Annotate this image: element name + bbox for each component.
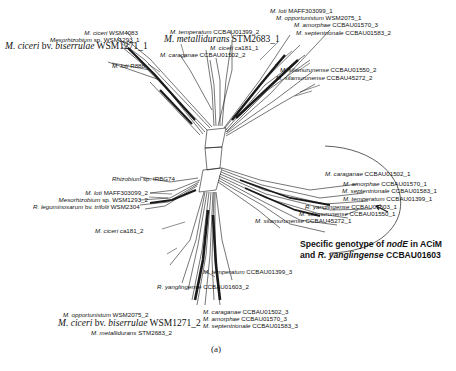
species: leguminosarum xyxy=(41,203,83,210)
strain: ca181_1 xyxy=(235,44,259,51)
label-m-loti-r88b: M. loti R88b xyxy=(100,62,145,69)
species: silamurunense xyxy=(264,217,304,224)
label-m-ciceri-biserrulae-wsm1271-1: M. ciceri bv. biserrulae WSM1271_1 xyxy=(5,41,148,51)
strain: WSM2304 xyxy=(111,203,140,210)
species: opportunistum xyxy=(285,14,324,21)
label-m-septentrionale-ccbau01583-2: M. septentrionale CCBAU01583_2 xyxy=(296,29,391,36)
strain: MAFF303099_2 xyxy=(104,189,148,196)
label-m-septentrionale-ccbau01583-3: M. septentrionale CCBAU01583_3 xyxy=(203,322,298,329)
strain: STM2683_1 xyxy=(232,34,280,44)
strain: CCBAU01550_2 xyxy=(331,66,377,73)
label-m-temperatum-ccbau01399-3: M. temperatum CCBAU01399_3 xyxy=(203,268,292,275)
callout-line-1: Specific genotype of nodE in ACiM xyxy=(300,239,442,250)
genus: M. xyxy=(91,329,98,336)
strain: STM2683_2 xyxy=(138,329,172,336)
species: metallidurans xyxy=(177,34,230,44)
label-m-silamurunense-ccbau01550-2: M. silamurunense CCBAU01550_2 xyxy=(280,66,376,73)
strain: WSM1293_2 xyxy=(112,196,148,203)
label-m-amorphae-ccbau01570-3-top: M. amorphae CCBAU01570_3 xyxy=(294,21,378,28)
strain: CCBAU01502_1 xyxy=(365,170,411,177)
genus: M. xyxy=(280,66,287,73)
genus: M. xyxy=(325,170,332,177)
label-r-yanglingense-ccbau01603-1: R. yanglingense CCBAU01603_1 xyxy=(305,203,397,210)
callout-text: in ACiM xyxy=(408,239,442,249)
label-m-ciceri-ca181-2: M. ciceri ca181_2 xyxy=(95,227,144,234)
species: silamurunense xyxy=(285,74,325,81)
species: ciceri xyxy=(18,41,40,51)
label-m-amorphae-ccbau01570-3-bottom: M. amorphae CCBAU01570_3 xyxy=(203,315,287,322)
genus: M. xyxy=(296,29,303,36)
genus: M. xyxy=(294,21,301,28)
genus: M. xyxy=(84,29,91,36)
label-r-yanglingense-ccbau01603-2: R. yanglingense CCBAU01603_2 xyxy=(157,283,249,290)
strain: IRBG74 xyxy=(153,175,175,182)
label-m-ciceri-biserrulae-wsm1271-2: M. ciceri bv. biserrulae WSM1271_2 xyxy=(58,318,201,328)
species: yanglingense xyxy=(313,203,349,210)
strain: R88b xyxy=(130,62,145,69)
label-m-ciceri-wsm4083: M. ciceri WSM4083 xyxy=(80,29,138,36)
species: temperatum xyxy=(212,268,245,275)
label-m-septentrionale-ccbau01583-1: M. septentrionale CCBAU01583_1 xyxy=(342,187,437,194)
biovar: trifolii xyxy=(95,203,109,210)
label-m-silamurunense-ccbau45272-2: M. silamurunense CCBAU45272_2 xyxy=(276,74,372,81)
species: caraganae xyxy=(169,51,198,58)
species: ciceri xyxy=(219,44,233,51)
genus: M. xyxy=(342,187,349,194)
label-m-metallidurans-stm2683-2: M. metallidurans STM2683_2 xyxy=(91,329,172,336)
species: loti xyxy=(121,62,129,69)
strain: CCBAU01399_3 xyxy=(246,268,292,275)
strain: CCBAU01603_1 xyxy=(351,203,397,210)
label-m-temperatum-ccbau01399-1: M. temperatum CCBAU01399_1 xyxy=(343,195,432,202)
strain: CCBAU01502_3 xyxy=(243,308,289,315)
label-m-caraganae-ccbau01502-1: M. caraganae CCBAU01502_1 xyxy=(325,170,410,177)
species: septentrionale xyxy=(351,187,390,194)
genus: M. xyxy=(203,315,210,322)
callout-line-2: and R. yanglingense CCBAU01603 xyxy=(300,250,442,261)
species: septentrionale xyxy=(212,322,251,329)
species: loti xyxy=(279,7,287,14)
genus: R. xyxy=(305,203,311,210)
strain: CCBAU01502_2 xyxy=(200,51,246,58)
strain: MAFF303099_1 xyxy=(288,7,332,14)
genus: M. xyxy=(343,180,350,187)
species: loti xyxy=(94,189,102,196)
label-rhizobium-irbg74: Rhizobium sp. IRBG74 xyxy=(112,175,175,182)
species: amorphae xyxy=(212,315,240,322)
gene-name: nodE xyxy=(386,239,407,249)
label-r-leguminosarum-trifolii-wsm2304: R. leguminosarum bv. trifolii WSM2304 xyxy=(33,203,140,210)
callout-text: and xyxy=(300,250,318,260)
strain: CCBAU01603_2 xyxy=(203,283,249,290)
strain: CCBAU01583_1 xyxy=(391,187,437,194)
biovar-prefix: bv. xyxy=(42,41,53,51)
genus: M. xyxy=(164,34,174,44)
strain: WSM2075_1 xyxy=(326,14,362,21)
strain: WSM2075_2 xyxy=(113,311,149,318)
biovar-prefix: bv. xyxy=(95,318,106,328)
strain: CCBAU45272_2 xyxy=(327,74,373,81)
genus: R. xyxy=(33,203,39,210)
strain: CCBAU01399_1 xyxy=(386,195,432,202)
species: ciceri xyxy=(93,29,107,36)
species: caraganae xyxy=(334,170,363,177)
label-m-loti-maff303099-1: M. loti MAFF303099_1 xyxy=(270,7,333,14)
biovar: biserrulae xyxy=(55,41,94,51)
label-m-opportunistum-wsm2075-2: M. opportunistum WSM2075_2 xyxy=(63,311,148,318)
species: caraganae xyxy=(212,308,241,315)
genus: M. xyxy=(210,44,217,51)
genus: M. xyxy=(343,195,350,202)
strain: WSM4083 xyxy=(109,29,138,36)
genus: R. xyxy=(157,283,163,290)
genus: M. xyxy=(276,74,283,81)
genus: M. xyxy=(270,7,277,14)
genus: M. xyxy=(160,51,167,58)
strain: ca181_2 xyxy=(120,227,144,234)
genus: M. xyxy=(203,268,210,275)
species: septentrionale xyxy=(305,29,344,36)
label-m-silamurunense-ccbau45272-1: M. silamurunense CCBAU45272_1 xyxy=(255,217,351,224)
label-m-ciceri-ca181-1: M. ciceri ca181_1 xyxy=(210,44,259,51)
genus: M. xyxy=(58,318,68,328)
species: sp. xyxy=(143,175,151,182)
callout-text: CCBAU01603 xyxy=(384,250,441,260)
genus: M. xyxy=(112,62,119,69)
strain: CCBAU01583_3 xyxy=(252,322,298,329)
